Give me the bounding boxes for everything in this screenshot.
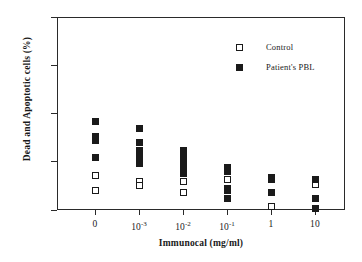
y-axis-tick xyxy=(51,17,57,18)
y-axis-title: Dead and Apoptotic cells (%) xyxy=(22,14,32,184)
marker-filled-square xyxy=(224,168,231,175)
x-axis-tick xyxy=(227,210,228,215)
marker-filled-square xyxy=(136,160,143,167)
marker-open-square xyxy=(180,178,187,185)
x-axis-tick xyxy=(95,210,96,215)
x-axis-tick xyxy=(183,210,184,215)
marker-filled-square xyxy=(312,205,319,212)
x-axis-tick xyxy=(139,210,140,215)
marker-filled-square xyxy=(136,147,143,154)
marker-filled-square xyxy=(92,137,99,144)
marker-filled-square xyxy=(180,170,187,177)
x-axis-tick-label: 10 xyxy=(285,219,345,230)
legend-item-patients-pbl: Patient's PBL xyxy=(236,60,348,80)
marker-open-square xyxy=(136,182,143,189)
legend-label: Control xyxy=(266,40,293,54)
marker-filled-square xyxy=(312,195,319,202)
marker-filled-square xyxy=(312,176,319,183)
marker-open-square xyxy=(268,203,275,210)
marker-filled-square xyxy=(92,154,99,161)
marker-filled-square xyxy=(224,187,231,194)
marker-filled-square xyxy=(136,139,143,146)
legend-item-control: Control xyxy=(236,40,348,60)
marker-open-square xyxy=(224,176,231,183)
y-axis-tick xyxy=(51,113,57,114)
scatter-chart-figure: 0255075100 Dead and Apoptotic cells (%) … xyxy=(0,0,362,262)
x-axis-tick xyxy=(271,210,272,215)
x-axis-title: Immunocal (mg/ml) xyxy=(57,238,345,248)
legend-label: Patient's PBL xyxy=(266,60,315,74)
open-square-icon xyxy=(236,44,243,51)
marker-open-square xyxy=(180,189,187,196)
marker-filled-square xyxy=(92,118,99,125)
marker-open-square xyxy=(92,172,99,179)
y-axis-tick xyxy=(51,210,57,211)
marker-filled-square xyxy=(136,125,143,132)
marker-filled-square xyxy=(268,189,275,196)
y-axis-tick xyxy=(51,161,57,162)
marker-filled-square xyxy=(224,195,231,202)
chart-legend: Control Patient's PBL xyxy=(236,40,348,80)
filled-square-icon xyxy=(236,64,243,71)
y-axis-tick xyxy=(51,65,57,66)
marker-filled-square xyxy=(268,176,275,183)
marker-open-square xyxy=(92,187,99,194)
